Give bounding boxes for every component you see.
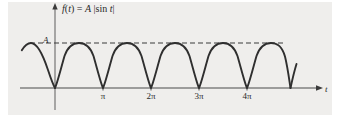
x-axis-label: t bbox=[325, 85, 328, 94]
title-abs-close: | bbox=[112, 3, 114, 14]
figure-rectified-sine-graph: f(t) = A |sin t| A t π 2π 3π 4π bbox=[0, 0, 340, 117]
x-tick-label-3pi: 3π bbox=[194, 92, 203, 101]
x-tick-label-4pi: 4π bbox=[242, 92, 251, 101]
x-tick-label-pi: π bbox=[101, 92, 106, 101]
y-axis-arrowhead-icon bbox=[52, 3, 57, 10]
function-title-label: f(t) = A |sin t| bbox=[62, 4, 114, 14]
x-axis bbox=[20, 85, 323, 91]
curve-rectified-sine bbox=[22, 43, 297, 88]
curve-arch-4 bbox=[199, 43, 247, 88]
amplitude-axis-label: A bbox=[43, 36, 49, 45]
title-equals: = bbox=[74, 3, 85, 14]
x-tick-label-2pi: 2π bbox=[146, 92, 155, 101]
curve-arch-5 bbox=[247, 43, 291, 88]
curve-arch-partial-left bbox=[22, 43, 55, 88]
title-abs-open: |sin bbox=[91, 3, 110, 14]
x-axis-arrowhead-icon bbox=[316, 85, 323, 91]
y-axis bbox=[52, 3, 57, 110]
curve-arch-1 bbox=[55, 43, 103, 88]
curve-arch-partial-right bbox=[291, 64, 297, 88]
curve-arch-2 bbox=[103, 43, 151, 88]
curve-arch-3 bbox=[151, 43, 199, 88]
plot-canvas bbox=[0, 0, 340, 117]
